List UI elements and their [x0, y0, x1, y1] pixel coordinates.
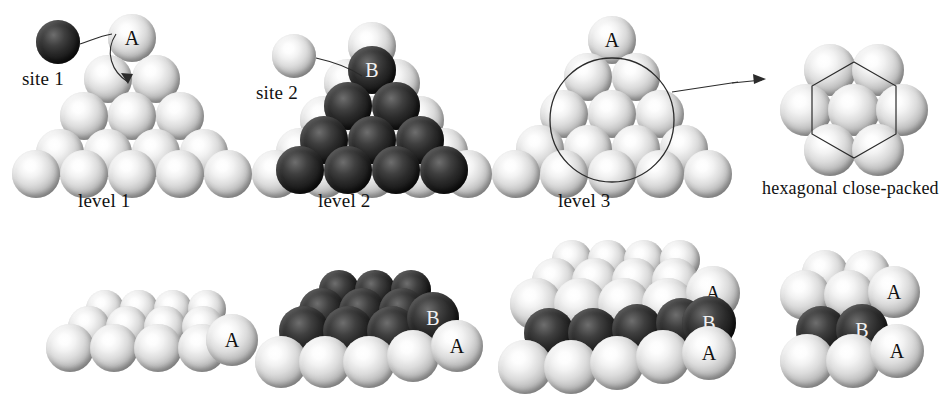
highlight-circle: [550, 58, 674, 182]
panel-1-annotations: [0, 0, 240, 220]
panel-level-3: A level 3: [470, 0, 720, 220]
panel-3-annotations: [470, 0, 720, 220]
stack2-label-sphere-a: A: [431, 320, 483, 372]
stack1-front-c2: [90, 324, 138, 372]
stack1-front-c3: [134, 324, 182, 372]
panel-level-1: site 1 A level 1: [0, 0, 240, 220]
panel-hcp-inset: hexagonal close-packed: [770, 40, 945, 220]
level-1-caption: level 1: [78, 190, 131, 212]
stack4-label-a-bottom: A: [870, 341, 924, 361]
stack2-label-a: A: [431, 336, 483, 356]
panel-2-annotations: [230, 0, 480, 220]
level-3-caption: level 3: [558, 190, 611, 212]
panel-stack-two-layers: B A: [255, 270, 495, 414]
hexagon-outline: [812, 62, 896, 158]
level-2-caption: level 2: [318, 190, 371, 212]
panel-stack-single-layer: A: [20, 290, 260, 414]
inset-leader-line: [672, 82, 738, 92]
stack4-label-a-top: A: [868, 282, 920, 302]
panel-stack-three-layers: A B A: [490, 240, 750, 414]
hcp-packing-figure: site 1 A level 1 site 2: [0, 0, 945, 414]
stack1-label-a: A: [206, 330, 258, 350]
stack3-label-a-bottom: A: [682, 343, 736, 363]
hcp-caption: hexagonal close-packed: [762, 178, 939, 199]
panel-stack-aba-cluster: A B A: [752, 250, 945, 414]
site-2-leader-line: [316, 58, 362, 76]
stack4-label-sphere-a-bottom: A: [870, 324, 924, 378]
site-1-leader-line: [80, 34, 112, 44]
stack3-label-sphere-a-bottom: A: [682, 326, 736, 380]
panel-level-2: site 2 B level 2: [230, 0, 480, 220]
inset-arrow-head: [753, 74, 766, 84]
stack1-label-sphere-a: A: [206, 314, 258, 366]
stack1-front-c1: [46, 324, 94, 372]
